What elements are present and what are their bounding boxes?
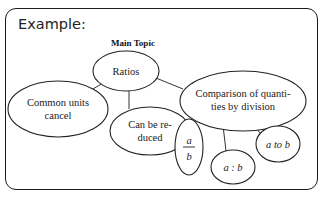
to-text: a to b: [266, 139, 290, 150]
concept-map: Ratios Common units cancel Can be re- du…: [0, 0, 325, 198]
reduced-line2: duced: [137, 132, 163, 143]
common-units-line2: cancel: [45, 110, 72, 121]
reduced-line1: Can be re-: [128, 119, 172, 130]
fraction-denominator: b: [186, 151, 191, 162]
comparison-line1: Comparison of quanti-: [195, 88, 291, 99]
connector-ratios-comparison: [156, 78, 183, 89]
colon-text: a : b: [223, 162, 242, 173]
common-units-line1: Common units: [27, 97, 89, 108]
comparison-line2: ties by division: [211, 101, 276, 112]
node-common-units: [8, 81, 108, 137]
ratios-text: Ratios: [113, 66, 140, 77]
fraction-numerator: a: [186, 135, 191, 146]
